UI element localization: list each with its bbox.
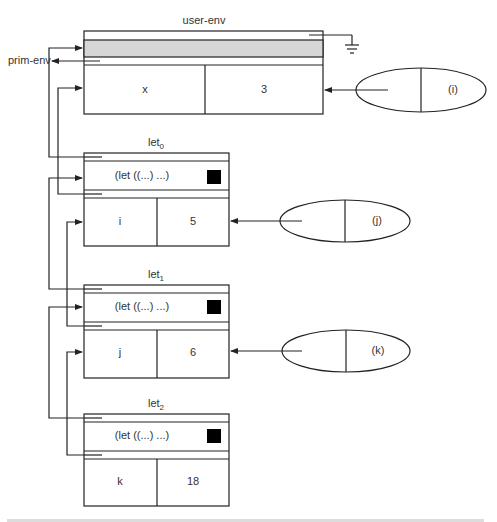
- let1-frame: [84, 285, 229, 378]
- proc-i-param: (i): [448, 83, 458, 95]
- user-env-frame: [52, 31, 359, 114]
- binding-name-j: j: [119, 346, 121, 358]
- binding-name-x: x: [142, 83, 148, 95]
- binding-value-x: 3: [261, 83, 267, 95]
- binding-name-k: k: [117, 475, 123, 487]
- prim-env-label: prim-env: [8, 54, 51, 66]
- env-pointer-lines: [49, 48, 84, 455]
- let0-frame: [84, 153, 229, 246]
- binding-value-j: 6: [190, 346, 196, 358]
- let0-body: (let ((...) ...): [115, 169, 169, 181]
- binding-name-i: i: [119, 215, 121, 227]
- let0-title: let0: [148, 136, 164, 151]
- proc-k-param: (k): [372, 344, 385, 356]
- let2-frame: [84, 414, 229, 506]
- proc-j-param: (j): [372, 214, 382, 226]
- user-env-title: user-env: [183, 14, 226, 26]
- procedure-j: [231, 200, 410, 242]
- let1-body: (let ((...) ...): [115, 300, 169, 312]
- procedure-i: [325, 68, 486, 112]
- let2-title: let2: [148, 397, 164, 412]
- binding-value-i: 5: [190, 215, 196, 227]
- let1-title: let1: [148, 268, 164, 283]
- diagram-canvas: [0, 0, 497, 522]
- binding-value-k: 18: [187, 475, 199, 487]
- let2-body: (let ((...) ...): [115, 429, 169, 441]
